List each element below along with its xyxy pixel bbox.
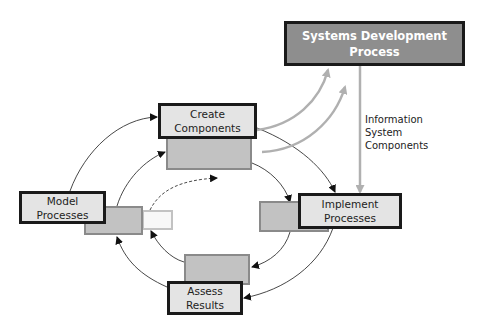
create-line1: Create <box>190 107 225 121</box>
implement-line1: Implement <box>322 197 379 211</box>
feed-arrow-1 <box>257 70 328 130</box>
arrow-inner-assess-to-white <box>151 231 184 262</box>
create-line2: Components <box>174 121 240 135</box>
label-line1: Information <box>365 113 428 126</box>
model-line2: Processes <box>37 208 89 222</box>
arrow-inner-model-to-create <box>117 152 165 206</box>
dashed-arrow <box>150 178 217 210</box>
create-components-shadow <box>166 136 252 170</box>
arrow-model-to-create <box>70 117 157 191</box>
sdp-line1: Systems Development <box>302 28 447 44</box>
implement-line2: Processes <box>324 211 376 225</box>
assess-line1: Assess <box>187 284 223 298</box>
arrow-create-to-implement <box>257 128 335 192</box>
implement-processes-box: Implement Processes <box>298 193 402 229</box>
label-line2: System <box>365 126 428 139</box>
arrow-implement-to-assess <box>244 228 333 298</box>
assess-line2: Results <box>186 298 224 312</box>
information-system-components-label: Information System Components <box>365 113 428 152</box>
model-line1: Model <box>47 194 79 208</box>
sdp-line2: Process <box>349 44 399 60</box>
create-components-box: Create Components <box>158 103 257 139</box>
feed-arrow-2 <box>262 87 345 152</box>
arrow-inner-create-to-implement <box>252 163 290 202</box>
label-line3: Components <box>365 139 428 152</box>
systems-development-process-box: Systems Development Process <box>284 21 465 66</box>
arrow-inner-implement-to-assess <box>252 232 290 267</box>
model-processes-ghost <box>142 210 173 230</box>
assess-results-box: Assess Results <box>167 281 243 315</box>
model-processes-box: Model Processes <box>19 191 106 224</box>
